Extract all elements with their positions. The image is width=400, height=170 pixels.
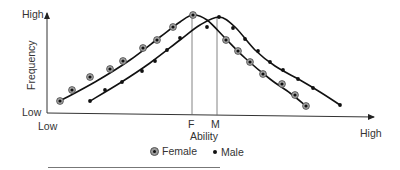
legend-male: Male: [213, 147, 244, 158]
chart-canvas: [0, 0, 400, 170]
legend-male-label: Male: [221, 147, 244, 158]
male-data-point: [103, 88, 107, 92]
male-data-point: [88, 99, 92, 103]
male-data-point: [311, 86, 315, 90]
x-axis-low-label: Low: [38, 121, 57, 132]
female-data-point: [107, 66, 114, 73]
female-data-point: [223, 37, 230, 44]
y-axis-high-label: High: [22, 9, 44, 20]
female-data-point: [69, 87, 76, 94]
female-mean-label: F: [188, 119, 194, 130]
male-data-point: [296, 77, 300, 81]
female-data-point: [260, 71, 267, 78]
female-data-point: [279, 81, 286, 88]
dot-marker-icon: [213, 150, 217, 154]
male-data-point: [120, 80, 124, 84]
female-data-point: [57, 98, 64, 105]
circled-dot-marker-icon: [150, 147, 159, 156]
female-data-point: [87, 74, 94, 81]
female-data-point: [303, 103, 310, 110]
legend-female: Female: [150, 146, 197, 157]
female-data-point: [170, 24, 177, 31]
x-axis-title: Ability: [190, 131, 218, 142]
female-data-point: [190, 12, 197, 19]
female-data-point: [247, 59, 254, 66]
female-data-point: [292, 92, 299, 99]
male-data-point: [140, 69, 144, 73]
male-data-point: [338, 103, 342, 107]
male-data-point: [153, 59, 157, 63]
male-data-point: [217, 15, 221, 19]
male-data-point: [165, 48, 169, 52]
male-data-point: [281, 68, 285, 72]
x-axis-high-label: High: [360, 128, 382, 139]
male-data-point: [205, 25, 209, 29]
female-data-point: [120, 58, 127, 65]
y-axis-low-label: Low: [22, 107, 41, 118]
mean-reference-lines: [192, 16, 217, 115]
male-data-point: [268, 60, 272, 64]
male-data-point: [243, 37, 247, 41]
distribution-curves: [60, 15, 340, 106]
male-mean-label: M: [211, 119, 220, 130]
male-data-point: [231, 26, 235, 30]
legend-female-label: Female: [162, 146, 197, 157]
x-axis: [47, 113, 374, 117]
female-data-point: [235, 48, 242, 55]
female-data-point: [140, 45, 147, 52]
male-data-point: [178, 36, 182, 40]
female-data-point: [154, 37, 161, 44]
male-data-point: [256, 49, 260, 53]
axes: [47, 13, 374, 117]
y-axis-title: Frequency: [26, 40, 37, 90]
caption-divider: [48, 167, 220, 168]
